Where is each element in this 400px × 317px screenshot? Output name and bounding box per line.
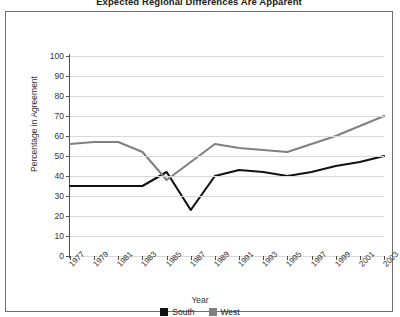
- y-axis-tick-label: 70: [30, 112, 64, 121]
- y-axis-tick-mark: [66, 236, 70, 237]
- y-axis-tick-mark: [66, 196, 70, 197]
- y-axis-tick-mark: [66, 216, 70, 217]
- chart-legend: SouthWest: [6, 307, 394, 317]
- y-axis-tick-label: 80: [30, 92, 64, 101]
- x-axis-title: Year: [6, 295, 394, 305]
- chart-title: Expected Regional Differences Are Appare…: [0, 0, 398, 7]
- y-axis-tick-label: 0: [30, 252, 64, 261]
- gridline: [70, 76, 384, 77]
- y-axis-tick-mark: [66, 56, 70, 57]
- y-axis-tick-label: 40: [30, 172, 64, 181]
- y-axis-tick-label: 50: [30, 152, 64, 161]
- legend-label: South: [172, 307, 194, 317]
- y-axis-tick-mark: [66, 156, 70, 157]
- gridline: [70, 116, 384, 117]
- gridline: [70, 236, 384, 237]
- gridline: [70, 216, 384, 217]
- y-axis-tick-label: 30: [30, 192, 64, 201]
- y-axis-tick-mark: [66, 176, 70, 177]
- gridline: [70, 156, 384, 157]
- gridline: [70, 176, 384, 177]
- y-axis-tick-label: 100: [30, 52, 64, 61]
- plot-area: [70, 56, 384, 256]
- gridline: [70, 136, 384, 137]
- legend-label: West: [221, 307, 240, 317]
- series-line-south: [70, 156, 384, 210]
- y-axis-tick-label: 10: [30, 232, 64, 241]
- y-axis-tick-mark: [66, 96, 70, 97]
- legend-swatch-icon: [209, 308, 217, 316]
- gridline: [70, 96, 384, 97]
- legend-swatch-icon: [160, 308, 168, 316]
- gridline: [70, 196, 384, 197]
- y-axis-tick-label: 60: [30, 132, 64, 141]
- y-axis-tick-mark: [66, 116, 70, 117]
- y-axis-tick-mark: [66, 76, 70, 77]
- chart-frame: Percentage in Agreement 0102030405060708…: [5, 11, 393, 312]
- y-axis-tick-labels: 0102030405060708090100: [28, 56, 64, 256]
- legend-item-south[interactable]: South: [160, 307, 194, 317]
- gridline: [70, 56, 384, 57]
- series-line-west: [70, 116, 384, 180]
- x-axis-tick-label: 2003: [382, 250, 400, 268]
- y-axis-tick-label: 20: [30, 212, 64, 221]
- y-axis-tick-label: 90: [30, 72, 64, 81]
- y-axis-tick-mark: [66, 136, 70, 137]
- legend-item-west[interactable]: West: [209, 307, 240, 317]
